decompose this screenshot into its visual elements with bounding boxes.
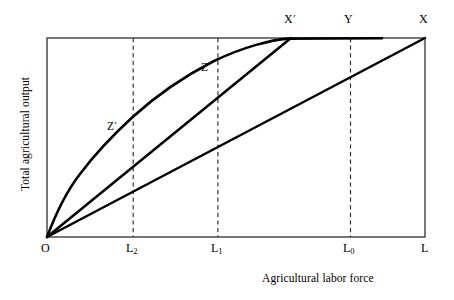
x-tick-label-l1: L1 <box>211 241 223 256</box>
x-tick-label-l0-sub: 0 <box>350 246 354 256</box>
series-z-line <box>47 38 291 237</box>
x-tick-label-l0: L0 <box>343 241 355 256</box>
curve-label-z-prime-text: Z <box>107 120 114 132</box>
curve-label-z: Z <box>201 61 208 73</box>
line-o-to-x <box>47 38 425 237</box>
point-label-x-prime-tick: ′ <box>293 12 296 24</box>
x-tick-label-l2: L2 <box>126 241 138 256</box>
line-o-to-xprime <box>47 38 291 237</box>
chart-figure: Total agricultural output Agricultural l… <box>0 0 454 300</box>
chart-canvas <box>0 0 454 300</box>
curve-label-z-prime-tick: ′ <box>114 119 117 131</box>
series-ox-line <box>47 38 425 237</box>
x-tick-label-l1-sub: 1 <box>218 246 222 256</box>
point-label-y: Y <box>344 12 353 27</box>
x-axis-title: Agricultural labor force <box>262 272 374 284</box>
curve-label-z-prime: Z′ <box>107 119 117 132</box>
point-label-x-prime: X′ <box>284 12 296 27</box>
series-zprime-curve <box>47 38 382 237</box>
x-tick-label-l: L <box>421 241 428 256</box>
x-tick-label-origin: O <box>41 241 50 256</box>
point-label-x-prime-text: X <box>284 12 293 26</box>
y-axis-title: Total agricultural output <box>19 39 31 229</box>
point-label-x: X <box>419 12 428 27</box>
curve-o-to-y <box>47 38 382 237</box>
dashed-reference-lines <box>133 38 350 237</box>
x-tick-label-l2-sub: 2 <box>133 246 137 256</box>
